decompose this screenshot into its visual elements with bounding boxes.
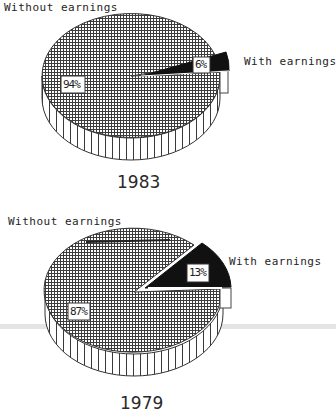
pie-1979-without-pct: 87% [70, 305, 87, 318]
pie-1983-without-label: Without earnings [4, 1, 118, 14]
pie-1979-without-label: Without earnings [8, 215, 122, 228]
pie-1983-with-label: With earnings [244, 55, 336, 68]
pie-1979-with-label: With earnings [229, 255, 322, 268]
pie-1979-year: 1979 [120, 393, 163, 413]
pie-1979 [44, 228, 231, 376]
pie-1979-slice-without [44, 228, 222, 352]
pie-1983-without-pct: 94% [63, 78, 80, 91]
pie-1983-with-pct: 6% [195, 58, 206, 71]
pie-1979-with-pct: 13% [189, 266, 206, 279]
pie-1983-year: 1983 [117, 172, 160, 192]
